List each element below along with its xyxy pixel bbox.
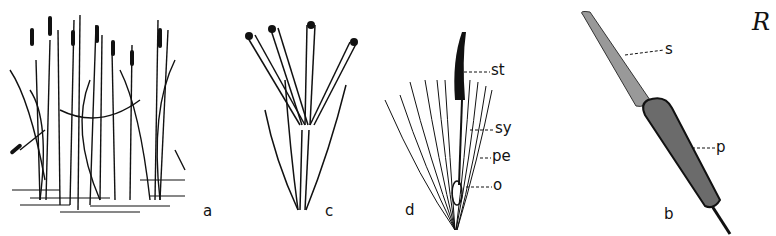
panel-b-spike (582, 11, 730, 234)
panel-d-hairs (385, 80, 492, 230)
part-label-s: s (665, 42, 673, 57)
panel-label-a: a (203, 204, 212, 219)
panel-d-leaders (464, 72, 495, 187)
panel-c-anthers (245, 21, 358, 46)
part-label-pe: pe (492, 149, 511, 164)
part-label-st: st (491, 63, 505, 78)
panel-label-d: d (405, 203, 415, 218)
panel-c-flower (248, 25, 356, 210)
part-label-o: o (493, 178, 502, 193)
illustration-canvas (0, 0, 776, 236)
panel-d-pistil (452, 32, 466, 205)
part-label-sy: sy (495, 121, 512, 136)
panel-label-b: b (664, 207, 674, 222)
part-label-p: p (716, 140, 726, 155)
panel-a-spikes (9, 16, 162, 155)
panel-label-c: c (325, 204, 333, 219)
corner-mark: R (752, 8, 770, 36)
